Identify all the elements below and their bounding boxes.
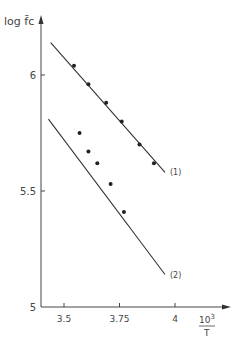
y-tick-label: 5.5: [20, 186, 36, 197]
series-label: (1): [170, 168, 181, 177]
fit-line: [48, 119, 165, 274]
x-ticks: 3.53.754: [57, 303, 178, 324]
y-axis-label-text: log f̄c: [4, 15, 34, 28]
data-point: [137, 143, 141, 147]
data-point: [109, 182, 113, 186]
series-label: (2): [170, 271, 181, 280]
series-1: (1): [51, 43, 182, 178]
data-point: [122, 210, 126, 214]
fit-line: [51, 43, 165, 173]
x-axis-label-numerator: 103: [199, 313, 215, 325]
data-point: [120, 119, 124, 123]
x-axis-arrow-icon: [222, 305, 231, 310]
data-point: [78, 131, 82, 135]
data-point: [72, 64, 76, 68]
y-axis-label: log f̄c: [4, 15, 34, 28]
x-axis-label: 103 T: [199, 313, 215, 338]
x-axis-label-denominator: T: [203, 328, 210, 338]
data-point: [104, 101, 108, 105]
x-tick-label: 4: [172, 314, 178, 324]
data-point: [95, 161, 99, 165]
series-2: (2): [48, 119, 181, 279]
y-axis-arrow-icon: [39, 15, 44, 24]
series-group: (1)(2): [48, 43, 181, 280]
y-tick-label: 6: [30, 70, 36, 81]
data-point: [152, 161, 156, 165]
axes: [39, 15, 232, 310]
chart: 3.53.754 55.56 (1)(2) log f̄c 103 T: [0, 0, 242, 344]
data-point: [86, 82, 90, 86]
x-tick-label: 3.75: [109, 314, 129, 324]
y-tick-label: 5: [30, 302, 36, 313]
x-tick-label: 3.5: [57, 314, 71, 324]
data-point: [86, 150, 90, 154]
